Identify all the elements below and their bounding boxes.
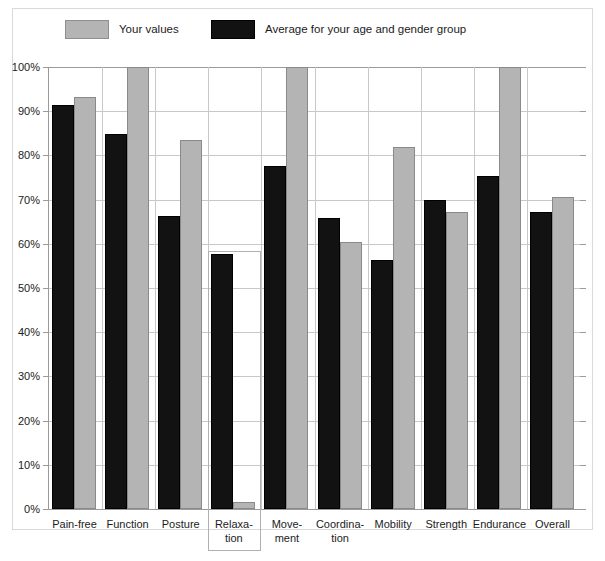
- bar-average: [371, 260, 393, 509]
- y-axis-label: 60%: [18, 238, 40, 250]
- bar-group: [155, 67, 208, 509]
- bar-average: [158, 216, 180, 509]
- y-axis-tick-right: [580, 332, 586, 333]
- x-axis-category-label: Endurance: [473, 517, 526, 531]
- y-axis-tick-right: [580, 376, 586, 377]
- bar-your-values: [286, 67, 308, 509]
- y-axis-label: 90%: [18, 105, 40, 117]
- bar-group: [474, 67, 527, 509]
- x-axis-category-label: Pain-free: [48, 517, 101, 531]
- chart-page: Your values Average for your age and gen…: [0, 0, 605, 561]
- x-axis-category-label: Relaxa-tion: [207, 517, 260, 545]
- x-axis-category-label: Mobility: [367, 517, 420, 531]
- bar-group: [49, 67, 102, 509]
- bar-your-values: [74, 97, 96, 509]
- y-axis-tick-right: [580, 200, 586, 201]
- bar-average: [477, 176, 499, 509]
- y-axis-tick-right: [580, 67, 586, 68]
- y-axis-label: 30%: [18, 370, 40, 382]
- y-axis-tick-right: [580, 421, 586, 422]
- bar-your-values: [499, 67, 521, 509]
- bar-your-values: [180, 140, 202, 509]
- y-axis-tick-right: [580, 155, 586, 156]
- legend-item-average: Average for your age and gender group: [211, 19, 466, 39]
- bar-average: [264, 166, 286, 509]
- bar-average: [52, 105, 74, 509]
- y-axis-tick-right: [580, 509, 586, 510]
- bar-group: [527, 67, 580, 509]
- legend-label-average: Average for your age and gender group: [265, 23, 466, 35]
- bar-group: [368, 67, 421, 509]
- y-axis-tick: [43, 509, 49, 510]
- bar-your-values: [393, 147, 415, 509]
- y-axis-label: 50%: [18, 282, 40, 294]
- bar-your-values: [127, 67, 149, 509]
- y-axis-label: 10%: [18, 459, 40, 471]
- bar-your-values: [233, 502, 255, 509]
- x-axis-category-label: Move-ment: [260, 517, 313, 545]
- y-axis-tick-right: [580, 244, 586, 245]
- y-axis-label: 40%: [18, 326, 40, 338]
- chart-card: Your values Average for your age and gen…: [12, 8, 593, 530]
- bar-group: [421, 67, 474, 509]
- bar-group: [208, 67, 261, 509]
- x-axis-category-label: Overall: [526, 517, 579, 531]
- bar-average: [424, 200, 446, 509]
- y-axis-label: 80%: [18, 149, 40, 161]
- plot-area: 0%10%20%30%40%50%60%70%80%90%100%: [48, 67, 580, 510]
- x-axis-category-label: Coordina-tion: [314, 517, 367, 545]
- x-axis-category-label: Strength: [420, 517, 473, 531]
- chart-legend: Your values Average for your age and gen…: [13, 9, 592, 49]
- legend-label-your-values: Your values: [119, 23, 179, 35]
- y-axis-tick-right: [580, 465, 586, 466]
- y-axis-label: 70%: [18, 194, 40, 206]
- y-axis-label: 20%: [18, 415, 40, 427]
- bar-group: [102, 67, 155, 509]
- x-axis-labels: Pain-freeFunctionPostureRelaxa-tionMove-…: [48, 513, 579, 557]
- bar-your-values: [446, 212, 468, 509]
- y-axis-tick-right: [580, 111, 586, 112]
- legend-swatch-black: [211, 20, 255, 39]
- x-axis-category-label: Function: [101, 517, 154, 531]
- bar-your-values: [340, 242, 362, 509]
- bar-group: [315, 67, 368, 509]
- bar-average: [211, 254, 233, 509]
- y-axis-tick-right: [580, 288, 586, 289]
- bar-average: [105, 134, 127, 509]
- y-axis-label: 100%: [12, 61, 40, 73]
- y-axis-label: 0%: [24, 503, 40, 515]
- bar-group: [261, 67, 314, 509]
- legend-swatch-gray: [65, 20, 109, 39]
- x-axis-category-label: Posture: [154, 517, 207, 531]
- bar-your-values: [552, 197, 574, 509]
- bar-average: [318, 218, 340, 509]
- bar-average: [530, 212, 552, 509]
- legend-item-your-values: Your values: [65, 19, 179, 39]
